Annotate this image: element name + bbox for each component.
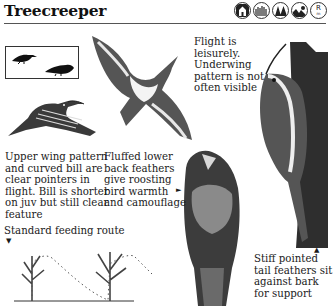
caption-flight: Flight is leisurely. Underwing pattern i…: [194, 36, 266, 94]
flight-underwing-illustration: [86, 32, 194, 142]
resident-icon: R m: [310, 2, 327, 19]
header-rule: [4, 23, 326, 24]
silhouette-inset: [5, 46, 79, 79]
route-dotted-path: [32, 255, 152, 300]
perched-silhouettes-icon: [6, 47, 78, 78]
tree-left: [22, 256, 44, 301]
tree-right: [96, 252, 126, 301]
page-title: Treecreeper: [4, 1, 106, 20]
climbing-bird-illustration: [256, 42, 329, 248]
flight-upperwing-illustration: [6, 80, 98, 140]
heath-moor-icon: [291, 2, 308, 19]
right-arrow-marker: ►: [176, 186, 181, 194]
town-garden-icon: [234, 2, 251, 19]
caption-fluffed-feathers: Fluffed lower back feathers give roostin…: [104, 151, 190, 209]
farmland-icon: [253, 2, 270, 19]
woodland-icon: [272, 2, 289, 19]
feeding-route-diagram: [10, 244, 160, 304]
caption-upper-wing: Upper wing pattern and curved bill are c…: [5, 151, 115, 221]
caption-feeding-route: Standard feeding route: [4, 225, 144, 237]
caption-stiff-tail: Stiff pointed tail feathers sit against …: [254, 253, 334, 299]
habitat-icons: R m: [234, 2, 327, 19]
